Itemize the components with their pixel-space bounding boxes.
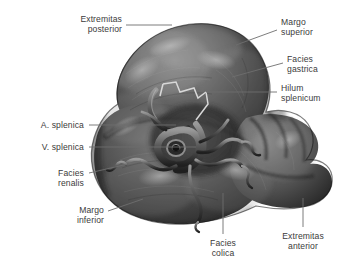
label-facies-colica: Facies colica — [199, 238, 247, 259]
label-facies-renalis: Facies renalis — [32, 168, 84, 189]
label-extremitas-anterior: Extremitas anterior — [268, 231, 338, 252]
label-margo-inferior: Margo inferior — [50, 205, 104, 226]
label-facies-gastrica: Facies gastrica — [287, 54, 344, 75]
label-a-splenica: A. splenica — [22, 120, 84, 130]
label-extremitas-posterior: Extremitas posterior — [38, 14, 122, 35]
label-v-splenica: V. splenica — [22, 142, 84, 152]
label-margo-superior: Margo superior — [281, 17, 343, 38]
anatomy-figure: Extremitas posteriorMargo superiorFacies… — [0, 0, 344, 274]
label-hilum-splenicum: Hilum splenicum — [281, 83, 344, 104]
